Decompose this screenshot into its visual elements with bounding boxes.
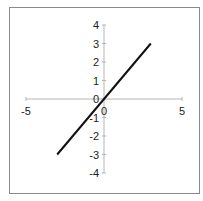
- y-tick-label: 2: [93, 56, 99, 68]
- y-tick-label: 0: [93, 93, 99, 105]
- x-tick-label: 5: [179, 105, 185, 117]
- y-tick-label: 3: [93, 38, 99, 50]
- y-tick-label: 1: [93, 75, 99, 87]
- y-tick-label: 4: [93, 19, 99, 31]
- x-tick-label: 0: [101, 105, 107, 117]
- y-tick-label: -2: [89, 130, 99, 142]
- x-tick-label: -5: [21, 105, 31, 117]
- y-tick-label: -3: [89, 149, 99, 161]
- line-chart: -505-4-3-2-101234: [0, 0, 203, 201]
- y-tick-label: -4: [89, 167, 99, 179]
